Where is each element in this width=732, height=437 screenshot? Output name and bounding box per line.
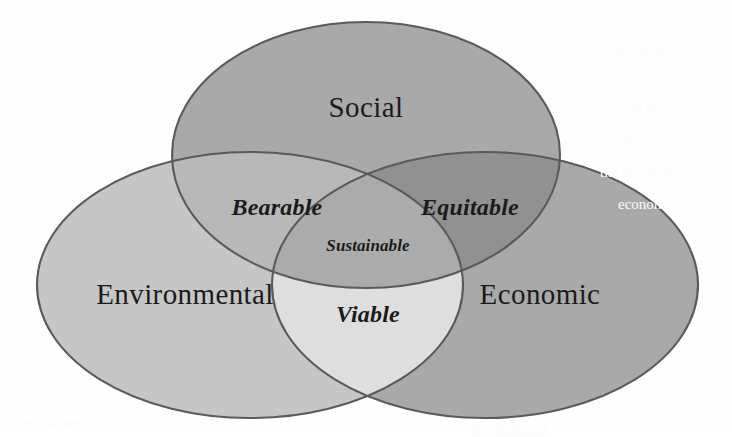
environmental-label: Environmental — [96, 278, 274, 310]
economic-label: Economic — [480, 278, 601, 310]
social-label: Social — [329, 91, 404, 123]
bearable-label: Bearable — [231, 194, 323, 220]
equitable-label: Equitable — [420, 194, 519, 220]
sustainable-label: Sustainable — [326, 236, 410, 255]
viable-label: Viable — [336, 301, 400, 327]
